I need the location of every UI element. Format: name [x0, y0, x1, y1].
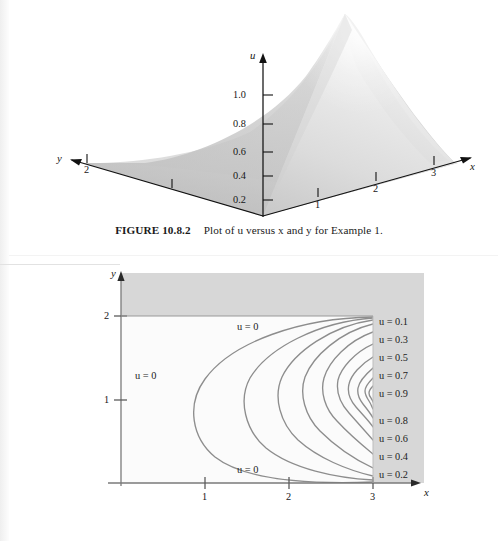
surface-u-tick-2: 0.8 [233, 118, 246, 129]
contour-x-tick-2: 2 [286, 491, 291, 502]
caption-figure-10-8-2: FIGURE 10.8.2Plot of u versus x and y fo… [0, 224, 498, 236]
scan-artifact-rule-top [0, 255, 498, 256]
level-label-0-8: u = 0.8 [379, 415, 408, 426]
level-label-0-2: u = 0.2 [379, 469, 408, 480]
caption-label-10-8-2: FIGURE 10.8.2 [115, 224, 191, 236]
level-label-0-3: u = 0.3 [379, 334, 408, 345]
boundary-label-top: u = 0 [237, 321, 258, 332]
boundary-label-left: u = 0 [135, 370, 156, 381]
surface-x-tick-1: 1 [315, 199, 320, 210]
contour-y-tick-1: 1 [104, 394, 109, 405]
contour-y-axis-label: y [111, 267, 116, 279]
contour-y-tick-2: 2 [104, 310, 109, 321]
surface-u-tick-4: 0.4 [233, 170, 246, 181]
level-label-0-7: u = 0.7 [379, 370, 408, 381]
surface-y-axis-label: y [57, 152, 62, 164]
figure-surface-plot: u x y 1.0 0.8 0.6 0.4 0.2 1 2 3 2 FIGURE… [0, 0, 498, 248]
contour-x-tick-3: 3 [370, 491, 375, 502]
surface-body [83, 14, 458, 216]
surface-u-axis-label: u [250, 49, 255, 61]
surface-x-tick-2: 2 [373, 183, 378, 194]
contour-plot-canvas [0, 258, 498, 541]
surface-x-axis-label: x [470, 160, 475, 172]
level-label-0-5: u = 0.5 [379, 352, 408, 363]
surface-u-tick-1: 1.0 [233, 89, 246, 100]
level-label-0-1: u = 0.1 [379, 316, 408, 327]
level-label-0-6: u = 0.6 [379, 433, 408, 444]
boundary-label-bottom: u = 0 [237, 464, 258, 475]
level-label-0-9: u = 0.9 [379, 388, 408, 399]
figure-contour-plot: y x 2 1 1 2 3 u = 0 u = 0 u = 0 u = 0.1 … [0, 258, 498, 541]
surface-u-tick-5: 0.2 [233, 194, 246, 205]
surface-y-tick-2: 2 [84, 164, 89, 175]
surface-x-tick-3: 3 [431, 167, 436, 178]
level-label-0-4: u = 0.4 [379, 451, 408, 462]
contour-x-tick-1: 1 [202, 491, 207, 502]
surface-u-tick-3: 0.6 [233, 146, 246, 157]
surface-plot-canvas [0, 0, 498, 248]
contour-x-axis-label: x [424, 486, 429, 498]
caption-text-10-8-2: Plot of u versus x and y for Example 1. [204, 224, 383, 236]
